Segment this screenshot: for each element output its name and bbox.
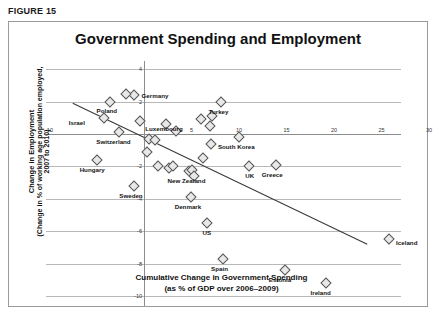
y-axis-label: Change in Employment (Change in % of wor…: [27, 67, 50, 237]
data-point-marker: [204, 120, 215, 131]
y-axis-tick-label: -6: [126, 228, 142, 234]
x-axis-tick-label: 20: [324, 127, 344, 133]
data-point-marker: [150, 135, 161, 146]
data-point-label: Hungary: [80, 166, 105, 173]
x-axis-tick-label: 15: [277, 127, 297, 133]
data-point-marker: [201, 217, 212, 228]
data-point-marker: [215, 96, 226, 107]
y-axis-tick-label: 4: [126, 66, 142, 72]
data-point-marker: [270, 159, 281, 170]
gridline: [46, 69, 401, 70]
data-point-label: Poland: [97, 107, 118, 114]
plot-area: 42-2-4-6-8-10 -1051015202530 GermanyPola…: [9, 22, 427, 306]
figure-frame: Government Spending and Employment 42-2-…: [8, 21, 428, 307]
data-point-marker: [141, 146, 152, 157]
data-point-marker: [153, 161, 164, 172]
x-axis-tick-label: 25: [372, 127, 392, 133]
data-point-label: Switzerland: [96, 138, 130, 145]
data-point-label: Spain: [211, 265, 228, 272]
gridline: [46, 199, 401, 200]
data-point-label: Denmark: [175, 203, 201, 210]
data-point-label: Turkey: [209, 108, 229, 115]
data-point-marker: [104, 96, 115, 107]
data-point-label: Germany: [142, 92, 169, 99]
gridline: [46, 296, 401, 297]
data-point-marker: [91, 154, 102, 165]
x-axis-label-line1: Cumulative Change in Government Spending: [39, 272, 404, 283]
data-point-label: Israel: [69, 119, 85, 126]
data-point-label: Iceland: [396, 239, 417, 246]
data-point-marker: [383, 234, 394, 245]
data-point-label: Greece: [262, 171, 283, 178]
data-point-label: Sweden: [119, 192, 142, 199]
y-axis-tick-label: -2: [126, 163, 142, 169]
x-axis-tick-label: 5: [182, 127, 202, 133]
figure-label: FIGURE 15: [8, 6, 56, 16]
data-point-label: Luxembourg: [145, 125, 182, 132]
data-point-label: UK: [245, 172, 254, 179]
data-point-marker: [197, 153, 208, 164]
y-axis-label-line1: Change in Employment: [27, 67, 36, 237]
x-axis-tick-label: 30: [419, 127, 439, 133]
data-point-marker: [98, 112, 109, 123]
x-axis-line: [46, 134, 401, 135]
data-point-label: South Korea: [218, 143, 255, 150]
data-point-label: US: [203, 229, 212, 236]
data-point-marker: [114, 127, 125, 138]
y-axis-tick-label: -8: [126, 261, 142, 267]
data-point-marker: [205, 138, 216, 149]
data-point-marker: [185, 192, 196, 203]
data-point-marker: [244, 161, 255, 172]
gridline: [46, 231, 401, 232]
x-axis-label: Cumulative Change in Government Spending…: [39, 272, 404, 294]
y-axis-label-line2: (Change in % of working age population e…: [36, 67, 50, 237]
data-point-marker: [128, 180, 139, 191]
data-point-label: New Zealand: [168, 177, 206, 184]
x-axis-label-line2: (as % of GDP over 2006–2009): [39, 283, 404, 294]
